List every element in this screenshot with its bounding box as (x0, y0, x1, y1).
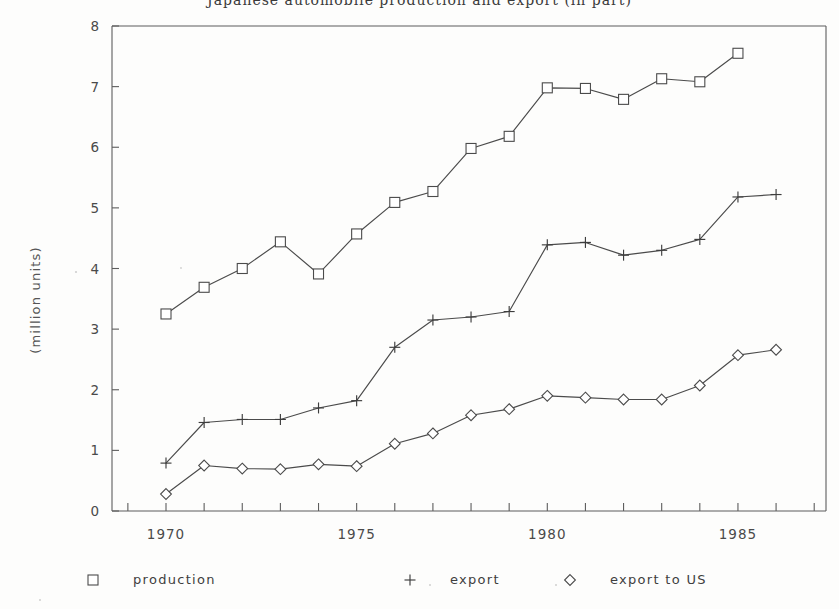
scan-speck (555, 584, 557, 586)
x-tick-label: 1985 (719, 526, 757, 542)
y-tick-label: 4 (90, 261, 100, 277)
data-point (161, 489, 172, 500)
data-point (428, 428, 439, 439)
y-tick-label: 3 (90, 321, 100, 337)
legend-item-production[interactable]: production (88, 572, 216, 587)
data-point (199, 282, 209, 292)
data-point (237, 264, 247, 274)
line-chart: Japanese automobile production and expor… (0, 0, 839, 609)
chart-title: Japanese automobile production and expor… (205, 0, 632, 8)
data-point (733, 350, 744, 361)
y-tick-label: 5 (90, 200, 100, 216)
y-tick-label: 1 (90, 442, 100, 458)
data-point (237, 463, 248, 474)
data-point (542, 83, 552, 93)
data-point (352, 229, 362, 239)
data-point (199, 460, 210, 471)
data-point (580, 83, 590, 93)
legend-label: production (133, 572, 216, 587)
data-point (351, 395, 362, 406)
x-tick-label: 1970 (147, 526, 185, 542)
data-point (580, 392, 591, 403)
series-layer (161, 48, 782, 499)
data-point (313, 402, 324, 413)
legend-label: export to US (610, 572, 707, 587)
data-point (657, 74, 667, 84)
y-tick-label: 7 (90, 79, 100, 95)
data-point (314, 269, 324, 279)
y-axis: 012345678 (90, 18, 119, 519)
y-tick-label: 6 (90, 139, 100, 155)
scan-speck (75, 271, 77, 273)
plus-marker-icon (405, 575, 416, 586)
scan-speck (39, 599, 41, 601)
data-point (275, 464, 286, 475)
data-point (656, 245, 667, 256)
data-point (351, 461, 362, 472)
data-point (656, 394, 667, 405)
y-axis-title: (million units) (28, 246, 43, 354)
data-point (504, 404, 515, 415)
series-production (161, 48, 743, 319)
x-tick-label: 1975 (337, 526, 375, 542)
chart-title-text: Japanese automobile production and expor… (205, 0, 632, 8)
legend-label: export (450, 572, 500, 587)
data-point (389, 342, 400, 353)
data-point (390, 197, 400, 207)
data-point (389, 438, 400, 449)
data-point (619, 94, 629, 104)
data-point (466, 143, 476, 153)
y-tick-label: 8 (90, 18, 100, 34)
data-point (618, 394, 629, 405)
data-point (771, 344, 782, 355)
data-point (313, 459, 324, 470)
series-export-to-us (161, 344, 782, 499)
data-point (504, 131, 514, 141)
scan-speck (429, 584, 431, 586)
data-point (618, 250, 629, 261)
x-tick-label: 1980 (528, 526, 566, 542)
data-point (161, 309, 171, 319)
legend-item-export[interactable]: export (405, 572, 500, 587)
chart-container: Japanese automobile production and expor… (0, 0, 839, 609)
data-point (542, 390, 553, 401)
square-marker-icon (88, 575, 98, 585)
data-point (504, 306, 515, 317)
y-tick-label: 2 (90, 382, 100, 398)
data-point (466, 410, 477, 421)
data-point (771, 189, 782, 200)
series-export (161, 189, 782, 469)
data-point (694, 380, 705, 391)
data-point (237, 414, 248, 425)
diamond-marker-icon (565, 575, 576, 586)
y-axis-title-text: (million units) (28, 246, 43, 354)
chart-legend: productionexportexport to US (88, 572, 707, 587)
x-axis: 1970197519801985 (128, 503, 814, 542)
data-point (695, 77, 705, 87)
plot-frame (112, 26, 826, 511)
scan-speck (180, 267, 182, 269)
data-point (427, 315, 438, 326)
legend-item-export-to-us[interactable]: export to US (565, 572, 707, 587)
data-point (428, 187, 438, 197)
data-point (733, 48, 743, 58)
y-tick-label: 0 (90, 503, 100, 519)
data-point (580, 237, 591, 248)
data-point (466, 312, 477, 323)
data-point (275, 414, 286, 425)
data-point (275, 237, 285, 247)
data-point (542, 239, 553, 250)
